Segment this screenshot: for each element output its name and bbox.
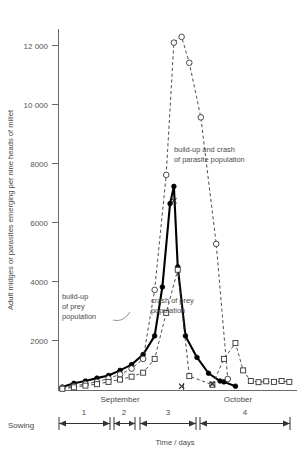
- interval-label-1: 1: [82, 408, 87, 417]
- annot-prey-line-3: population: [62, 312, 96, 321]
- data-point: [106, 379, 111, 384]
- interval-label-4: 4: [243, 408, 248, 417]
- y-tick-label-2000: 2000: [30, 337, 48, 346]
- y-tick-label-12000: 12 000: [24, 42, 49, 51]
- y-tick-label-6000: 6000: [30, 219, 48, 228]
- population-dynamics-chart: 12 000 10 000 8000 6000 4000 2000 Adult …: [0, 0, 302, 451]
- data-point: [152, 356, 157, 361]
- annot-crash-line-2: population: [151, 306, 185, 315]
- data-point: [186, 60, 192, 66]
- annot-parasite-line-2: of parasite population: [174, 155, 245, 164]
- series-filled-circle: [60, 184, 238, 389]
- data-point: [264, 379, 269, 384]
- x-axis-group: September October Sowing 1 2 3: [8, 383, 297, 447]
- annot-prey-line-2: of prey: [62, 302, 85, 311]
- interval-label-3: 3: [166, 408, 171, 417]
- annotation-build-up-prey: build-up of prey population: [62, 292, 130, 321]
- y-axis-group: 12 000 10 000 8000 6000 4000 2000 Adult …: [6, 29, 59, 391]
- data-point: [241, 368, 246, 373]
- data-point: [271, 379, 276, 384]
- data-point: [248, 379, 253, 384]
- y-axis-title: Adult midges or parasites emerging per n…: [6, 109, 15, 310]
- annot-prey-leader: [113, 312, 130, 321]
- data-point: [129, 366, 135, 372]
- data-point: [152, 287, 158, 293]
- data-point: [210, 382, 215, 387]
- data-point: [71, 385, 76, 390]
- data-point: [160, 285, 165, 290]
- data-point: [206, 371, 211, 376]
- annot-crash-line-1: crash of prey: [151, 296, 194, 305]
- data-point: [287, 379, 292, 384]
- x-axis-title: Time / days: [156, 438, 195, 447]
- data-point: [279, 379, 284, 384]
- data-point: [183, 334, 188, 339]
- data-point: [172, 184, 177, 189]
- data-point: [256, 380, 261, 385]
- interval-label-2: 2: [122, 408, 127, 417]
- plot-data-layer: [60, 34, 292, 391]
- annot-parasite-line-1: build-up and crash: [174, 145, 235, 154]
- data-point: [233, 341, 238, 346]
- data-point: [171, 40, 177, 46]
- data-point: [118, 377, 123, 382]
- y-tick-label-10000: 10 000: [24, 101, 49, 110]
- y-tick-label-8000: 8000: [30, 160, 48, 169]
- annot-prey-line-1: build-up: [62, 292, 88, 301]
- y-tick-label-4000: 4000: [30, 278, 48, 287]
- series-line: [62, 37, 227, 388]
- data-point: [233, 384, 238, 389]
- data-point: [225, 376, 231, 382]
- data-point: [179, 34, 185, 40]
- series-cross: [171, 198, 215, 389]
- data-point: [187, 374, 192, 379]
- month-label-september: September: [100, 395, 139, 404]
- data-point: [152, 334, 157, 339]
- series-line: [62, 186, 235, 387]
- sowing-label: Sowing: [8, 421, 34, 430]
- series-open-square: [60, 267, 292, 391]
- annotation-parasite-cycle: build-up and crash of parasite populatio…: [174, 145, 245, 164]
- data-point: [195, 355, 200, 360]
- data-point: [117, 372, 123, 378]
- chart-svg: 12 000 10 000 8000 6000 4000 2000 Adult …: [0, 0, 302, 451]
- series-line: [62, 270, 289, 389]
- data-point: [94, 382, 99, 387]
- data-point: [198, 115, 204, 121]
- data-point: [163, 172, 169, 178]
- interval-brackets: 1 2 3 4: [59, 408, 290, 430]
- data-point: [141, 370, 146, 375]
- data-point: [140, 356, 146, 362]
- series-open-circle: [60, 34, 231, 391]
- data-point: [83, 383, 88, 388]
- month-label-october: October: [224, 395, 253, 404]
- data-point: [129, 374, 134, 379]
- data-point: [175, 267, 180, 272]
- data-point: [60, 386, 65, 391]
- data-point: [213, 241, 219, 247]
- annotation-crash-prey: crash of prey population: [151, 296, 194, 315]
- data-point: [221, 356, 226, 361]
